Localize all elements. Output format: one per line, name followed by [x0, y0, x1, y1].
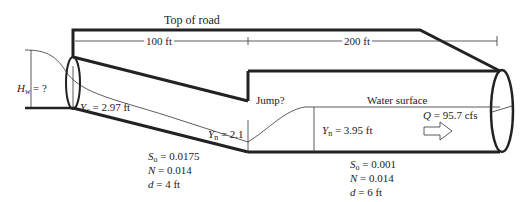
jump-label: Jump?: [256, 94, 285, 106]
headwater-label: Hw = ?: [17, 82, 47, 94]
pipe2-properties: So = 0.001 N = 0.014 d = 6 ft: [350, 157, 396, 199]
flow-arrow-icon: [424, 122, 452, 140]
water-surface-label: Water surface: [367, 94, 428, 106]
pipe1-properties: So = 0.0175 N = 0.014 d = 4 ft: [148, 149, 199, 191]
dimension-100ft: 100 ft: [144, 35, 174, 47]
normal-depth-downstream-label: Yn = 3.95 ft: [322, 124, 373, 136]
dimension-200ft: 200 ft: [342, 35, 372, 47]
flow-label: Q = 95.7 cfs: [423, 109, 477, 121]
top-of-road-label: Top of road: [164, 14, 220, 26]
critical-depth-label: Yc = 2.97 ft: [80, 101, 130, 113]
road-top: [73, 30, 500, 71]
normal-depth-upstream-label: Yn = 2.1: [208, 128, 244, 140]
